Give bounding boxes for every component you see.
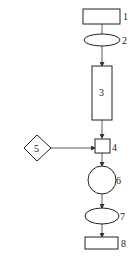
node-8: 8 — [85, 237, 126, 249]
node-5-label: 5 — [34, 143, 39, 154]
node-1: 1 — [83, 9, 128, 24]
node-2-label: 2 — [122, 35, 127, 46]
node-3: 3 — [92, 66, 112, 120]
node-6-label: 6 — [116, 175, 121, 186]
node-2: 2 — [84, 34, 127, 46]
node-1-label: 1 — [123, 11, 128, 22]
node-6-circle — [88, 166, 116, 194]
node-5: 5 — [24, 135, 51, 161]
node-4-label: 4 — [112, 142, 117, 153]
node-6: 6 — [88, 166, 121, 194]
node-1-rectangle — [83, 9, 120, 24]
node-2-ellipse — [84, 34, 120, 46]
node-8-label: 8 — [121, 238, 126, 249]
node-8-rectangle — [85, 237, 118, 249]
flowchart-diagram: 1 2 3 4 5 6 7 8 — [0, 0, 135, 258]
node-3-label: 3 — [99, 87, 104, 98]
node-7-ellipse — [85, 208, 119, 224]
node-7: 7 — [85, 208, 125, 224]
node-7-label: 7 — [120, 211, 125, 222]
node-4: 4 — [95, 139, 117, 153]
node-4-square — [95, 139, 110, 153]
